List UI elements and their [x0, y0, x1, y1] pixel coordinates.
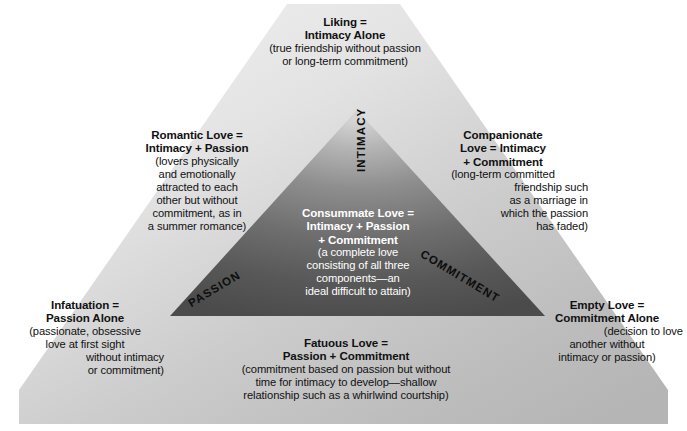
- label-liking-body-line1: (true friendship without passion: [253, 42, 437, 55]
- label-fatuous-heading-line2: Passion + Commitment: [235, 349, 457, 362]
- label-romantic-body-line2: and emotionally: [113, 168, 281, 181]
- label-romantic-heading-line2: Intimacy + Passion: [113, 141, 281, 154]
- label-fatuous-heading-line1: Fatuous Love =: [235, 336, 457, 349]
- label-romantic-body-line3: attracted to each: [113, 181, 281, 194]
- triangular-theory-of-love-diagram: INTIMACY PASSION COMMITMENT Liking = Int…: [0, 0, 687, 431]
- label-consummate-body-line4: ideal difficult to attain): [272, 285, 444, 298]
- label-companionate-heading-line2: Love = Intimacy: [418, 141, 588, 154]
- label-empty-body-line2: another without: [531, 338, 683, 351]
- axis-label-intimacy: INTIMACY: [355, 112, 367, 172]
- label-fatuous-body-line3: relationship such as a whirlwind courtsh…: [235, 389, 457, 402]
- label-empty-heading-line2: Commitment Alone: [531, 311, 683, 324]
- label-companionate-body-line2: friendship such: [418, 181, 588, 194]
- label-infatuation-body-line2: love at first sight: [6, 338, 164, 351]
- label-consummate-body-line2: consisting of all three: [272, 259, 444, 272]
- label-liking-body-line2: or long-term commitment): [253, 55, 437, 68]
- label-consummate-body-line3: components—an: [272, 272, 444, 285]
- label-consummate-heading-line2: Intimacy + Passion: [272, 219, 444, 232]
- label-empty-body-line1: (decision to love: [531, 325, 683, 338]
- label-empty-heading-line1: Empty Love =: [531, 298, 683, 311]
- label-empty-body-line3: intimacy or passion): [531, 351, 683, 364]
- label-romantic-body-line4: other but without: [113, 194, 281, 207]
- label-infatuation-heading-line2: Passion Alone: [6, 311, 164, 324]
- label-fatuous-love: Fatuous Love = Passion + Commitment (com…: [235, 336, 457, 402]
- label-infatuation-body-line4: or commitment): [6, 364, 164, 377]
- label-liking: Liking = Intimacy Alone (true friendship…: [253, 15, 437, 68]
- label-liking-heading-line2: Intimacy Alone: [253, 28, 437, 41]
- label-companionate-heading-line1: Companionate: [418, 128, 588, 141]
- label-infatuation-heading-line1: Infatuation =: [6, 298, 164, 311]
- label-liking-heading-line1: Liking =: [253, 15, 437, 28]
- label-infatuation: Infatuation = Passion Alone (passionate,…: [6, 298, 164, 377]
- label-infatuation-body-line1: (passionate, obsessive: [6, 325, 164, 338]
- label-romantic-body-line6: a summer romance): [113, 220, 281, 233]
- label-romantic-body-line5: commitment, as in: [113, 207, 281, 220]
- label-fatuous-body-line1: (commitment based on passion but without: [235, 363, 457, 376]
- label-consummate-body-line1: (a complete love: [272, 246, 444, 259]
- label-consummate-love: Consummate Love = Intimacy + Passion + C…: [272, 206, 444, 298]
- label-companionate-body-line1: (long-term committed: [418, 168, 588, 181]
- label-romantic-heading-line1: Romantic Love =: [113, 128, 281, 141]
- label-companionate-heading-line3: + Commitment: [418, 155, 588, 168]
- label-consummate-heading-line3: + Commitment: [272, 233, 444, 246]
- label-fatuous-body-line2: time for intimacy to develop—shallow: [235, 376, 457, 389]
- label-romantic-body-line1: (lovers physically: [113, 155, 281, 168]
- label-empty-love: Empty Love = Commitment Alone (decision …: [531, 298, 683, 364]
- label-consummate-heading-line1: Consummate Love =: [272, 206, 444, 219]
- label-infatuation-body-line3: without intimacy: [6, 351, 164, 364]
- label-romantic-love: Romantic Love = Intimacy + Passion (love…: [113, 128, 281, 233]
